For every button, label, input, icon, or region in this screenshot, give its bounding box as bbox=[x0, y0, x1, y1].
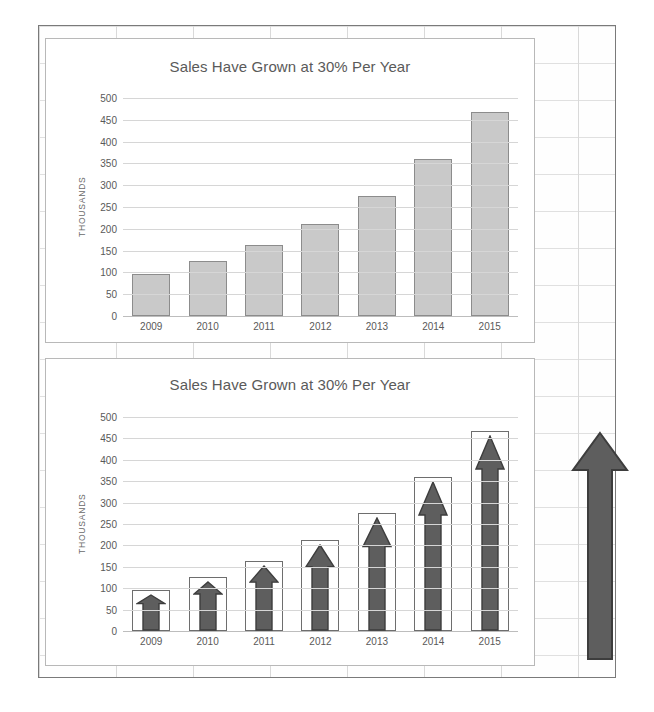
x-axis-labels-top: 2009201020112012201320142015 bbox=[123, 321, 518, 332]
y-axis-tick: 50 bbox=[106, 604, 117, 615]
y-axis-tick: 300 bbox=[100, 497, 117, 508]
bar-hollow-with-arrow[interactable] bbox=[301, 540, 339, 631]
chart-title-bottom: Sales Have Grown at 30% Per Year bbox=[46, 376, 534, 393]
bar[interactable] bbox=[471, 112, 509, 316]
bar-hollow-with-arrow[interactable] bbox=[358, 513, 396, 631]
up-arrow-icon bbox=[136, 594, 166, 631]
y-axis-label-top: THOUSANDS bbox=[77, 176, 87, 237]
gridline bbox=[123, 545, 518, 546]
x-axis-tick: 2011 bbox=[243, 636, 285, 647]
bar[interactable] bbox=[358, 196, 396, 316]
gridline bbox=[123, 524, 518, 525]
y-axis-tick: 500 bbox=[100, 412, 117, 423]
gridline bbox=[123, 503, 518, 504]
chart-panel-arrow-bars[interactable]: Sales Have Grown at 30% Per Year THOUSAN… bbox=[45, 358, 535, 666]
bar[interactable] bbox=[414, 159, 452, 316]
y-axis-tick: 400 bbox=[100, 454, 117, 465]
y-axis-tick: 500 bbox=[100, 93, 117, 104]
gridline bbox=[123, 229, 518, 230]
x-axis-tick: 2010 bbox=[187, 321, 229, 332]
gridline bbox=[123, 316, 518, 317]
gridline bbox=[123, 460, 518, 461]
x-axis-tick: 2015 bbox=[469, 636, 511, 647]
y-axis-tick: 0 bbox=[111, 626, 117, 637]
y-axis-tick: 200 bbox=[100, 223, 117, 234]
y-axis-tick: 450 bbox=[100, 114, 117, 125]
x-axis-tick: 2013 bbox=[356, 636, 398, 647]
bar-hollow-with-arrow[interactable] bbox=[245, 561, 283, 631]
y-axis-tick: 450 bbox=[100, 433, 117, 444]
y-axis-tick: 50 bbox=[106, 289, 117, 300]
gridline bbox=[123, 163, 518, 164]
gridline bbox=[123, 251, 518, 252]
chart-panel-plain-bars[interactable]: Sales Have Grown at 30% Per Year THOUSAN… bbox=[45, 38, 535, 343]
y-axis-tick: 100 bbox=[100, 583, 117, 594]
up-arrow-icon bbox=[249, 565, 279, 631]
x-axis-tick: 2014 bbox=[412, 636, 454, 647]
gridline bbox=[123, 481, 518, 482]
y-axis-label-bottom: THOUSANDS bbox=[77, 493, 87, 554]
y-axis-tick: 150 bbox=[100, 245, 117, 256]
gridline bbox=[123, 98, 518, 99]
x-axis-tick: 2015 bbox=[469, 321, 511, 332]
x-axis-tick: 2009 bbox=[130, 636, 172, 647]
y-axis-tick: 300 bbox=[100, 180, 117, 191]
x-axis-tick: 2011 bbox=[243, 321, 285, 332]
gridline bbox=[123, 272, 518, 273]
gridline bbox=[123, 120, 518, 121]
y-axis-tick: 200 bbox=[100, 540, 117, 551]
y-axis-tick: 350 bbox=[100, 476, 117, 487]
bar-hollow-with-arrow[interactable] bbox=[414, 477, 452, 631]
plot-area-top: 050100150200250300350400450500 bbox=[123, 98, 518, 316]
up-arrow-icon bbox=[362, 517, 392, 631]
plot-area-bottom: 050100150200250300350400450500 bbox=[123, 417, 518, 631]
gridline bbox=[123, 567, 518, 568]
gridline bbox=[123, 417, 518, 418]
y-axis-tick: 250 bbox=[100, 202, 117, 213]
x-axis-tick: 2012 bbox=[299, 636, 341, 647]
gridline bbox=[123, 207, 518, 208]
gridline bbox=[123, 588, 518, 589]
up-arrow-icon bbox=[475, 435, 505, 631]
up-arrow-shape[interactable] bbox=[571, 430, 629, 662]
x-axis-tick: 2010 bbox=[187, 636, 229, 647]
gridline bbox=[123, 185, 518, 186]
bar[interactable] bbox=[245, 245, 283, 316]
bar-hollow-with-arrow[interactable] bbox=[471, 431, 509, 631]
gridline bbox=[123, 142, 518, 143]
y-axis-tick: 250 bbox=[100, 519, 117, 530]
gridline bbox=[123, 438, 518, 439]
y-axis-tick: 400 bbox=[100, 136, 117, 147]
gridline bbox=[123, 610, 518, 611]
x-axis-tick: 2013 bbox=[356, 321, 398, 332]
y-axis-tick: 150 bbox=[100, 561, 117, 572]
y-axis-tick: 100 bbox=[100, 267, 117, 278]
x-axis-tick: 2009 bbox=[130, 321, 172, 332]
x-axis-tick: 2014 bbox=[412, 321, 454, 332]
gridline bbox=[123, 294, 518, 295]
gridline bbox=[123, 631, 518, 632]
y-axis-tick: 350 bbox=[100, 158, 117, 169]
bar[interactable] bbox=[189, 261, 227, 316]
x-axis-tick: 2012 bbox=[299, 321, 341, 332]
chart-title-top: Sales Have Grown at 30% Per Year bbox=[46, 58, 534, 75]
y-axis-tick: 0 bbox=[111, 311, 117, 322]
x-axis-labels-bottom: 2009201020112012201320142015 bbox=[123, 636, 518, 647]
bar-hollow-with-arrow[interactable] bbox=[189, 577, 227, 631]
bar[interactable] bbox=[301, 224, 339, 316]
